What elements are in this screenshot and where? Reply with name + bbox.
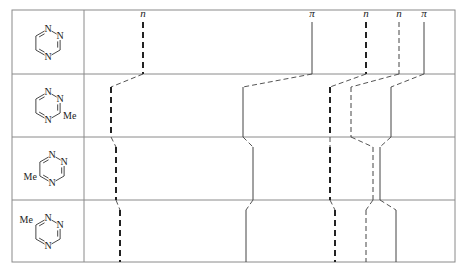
nitrogen-atom-label: N (44, 86, 51, 97)
nitrogen-atom-label: N (44, 212, 51, 223)
methyl-substituent-label: Me (63, 110, 77, 121)
orbital-level-n-1: n (111, 7, 146, 262)
orbital-label: n (140, 7, 146, 19)
nitrogen-atom-label: N (61, 156, 68, 167)
orbital-levels: nπnnπ (111, 7, 427, 262)
methyl-substituent-label: Me (24, 171, 38, 182)
triazine-structure-row-4: NNNMe (20, 212, 64, 251)
methyl-substituent-label: Me (20, 214, 34, 225)
nitrogen-atom-label: N (48, 149, 55, 160)
table-grid (12, 10, 455, 262)
nitrogen-atom-label: N (44, 114, 51, 125)
orbital-label: π (309, 7, 315, 19)
orbital-label: n (363, 7, 369, 19)
orbital-correlation-diagram: NNNNNNMeNNNMeNNNMe nπnnπ (0, 0, 462, 271)
triazine-structure-row-2: NNNMe (36, 86, 77, 125)
orbital-level-n-3: n (330, 7, 369, 262)
table-border (12, 10, 455, 262)
orbital-label: n (396, 7, 402, 19)
nitrogen-atom-label: N (44, 240, 51, 251)
nitrogen-atom-label: N (48, 177, 55, 188)
nitrogen-atom-label: N (57, 93, 64, 104)
orbital-level-n-4: n (351, 7, 402, 262)
nitrogen-atom-label: N (44, 51, 51, 62)
triazine-structure-row-1: NNN (36, 23, 64, 62)
nitrogen-atom-label: N (57, 219, 64, 230)
nitrogen-atom-label: N (44, 23, 51, 34)
orbital-level-pi-5: π (380, 7, 427, 262)
orbital-level-pi-2: π (243, 7, 315, 262)
orbital-label: π (421, 7, 427, 19)
nitrogen-atom-label: N (57, 30, 64, 41)
triazine-structure-row-3: NNNMe (24, 149, 68, 188)
